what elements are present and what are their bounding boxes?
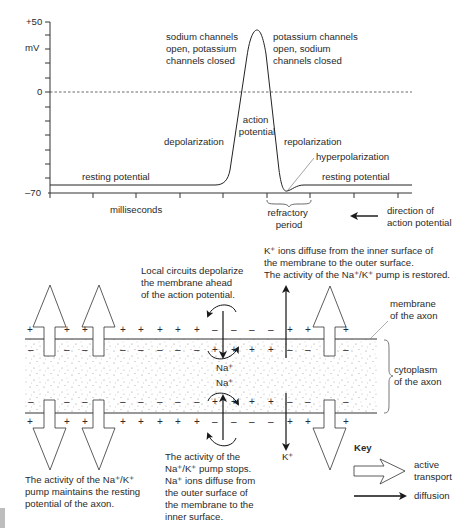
svg-text:–: – bbox=[120, 344, 126, 355]
svg-text:+: + bbox=[175, 416, 181, 427]
svg-text:–: – bbox=[138, 344, 144, 355]
svg-text:+: + bbox=[343, 416, 349, 427]
svg-text:–: – bbox=[287, 396, 293, 407]
svg-text:–: – bbox=[64, 396, 70, 407]
svg-text:–: – bbox=[212, 324, 218, 335]
resting-potential-right-label: resting potential bbox=[322, 171, 390, 182]
svg-text:–: – bbox=[157, 396, 163, 407]
svg-text:–: – bbox=[305, 396, 311, 407]
svg-text:–: – bbox=[268, 324, 274, 335]
active-transport-key-icon bbox=[354, 459, 405, 484]
local-circuit-arrow-icon bbox=[208, 434, 236, 446]
svg-text:–: – bbox=[287, 344, 293, 355]
svg-text:+: + bbox=[305, 416, 311, 427]
y-unit-label: mV bbox=[25, 42, 40, 53]
membrane-of-axon-label: membrane of the axon bbox=[390, 298, 439, 321]
charge-signs-upper-outer: +++ +++ ++ –––– +++ bbox=[27, 324, 349, 335]
cytoplasm-brace bbox=[384, 340, 393, 413]
svg-text:+: + bbox=[249, 344, 255, 355]
action-potential-diagram: +50 mV 0 –70 milliseconds sodium channel… bbox=[0, 0, 476, 531]
svg-text:–: – bbox=[175, 344, 181, 355]
svg-text:–: – bbox=[82, 344, 88, 355]
refractory-brace bbox=[267, 200, 311, 207]
svg-text:+: + bbox=[268, 344, 274, 355]
svg-text:+: + bbox=[138, 324, 144, 335]
svg-text:+: + bbox=[157, 416, 163, 427]
svg-text:+: + bbox=[305, 324, 311, 335]
k-ion-label: K⁺ bbox=[282, 451, 293, 462]
svg-text:–: – bbox=[305, 344, 311, 355]
svg-text:–: – bbox=[249, 324, 255, 335]
svg-text:+: + bbox=[287, 416, 293, 427]
repolarization-label: repolarization bbox=[284, 136, 342, 147]
k-diffuse-note: K⁺ ions diffuse from the inner surface o… bbox=[264, 245, 450, 280]
potassium-channels-label: potassium channels open, sodium channels… bbox=[273, 31, 360, 66]
svg-text:–: – bbox=[268, 416, 274, 427]
charge-signs-lower-outer: +++ +++ ++ –––– +++ bbox=[27, 416, 349, 427]
svg-text:+: + bbox=[82, 324, 88, 335]
sodium-channels-label: sodium channels open, potassium channels… bbox=[166, 31, 241, 66]
resting-potential-left-label: resting potential bbox=[82, 171, 150, 182]
svg-text:+: + bbox=[27, 416, 33, 427]
svg-text:–: – bbox=[212, 416, 218, 427]
membrane-potential-graph: +50 mV 0 –70 milliseconds sodium channel… bbox=[25, 16, 452, 230]
y-label-top: +50 bbox=[26, 16, 42, 27]
svg-text:+: + bbox=[212, 344, 218, 355]
svg-text:+: + bbox=[157, 324, 163, 335]
svg-text:–: – bbox=[28, 396, 34, 407]
svg-text:+: + bbox=[194, 416, 200, 427]
x-ticks bbox=[50, 193, 398, 198]
svg-text:+: + bbox=[194, 324, 200, 335]
svg-text:–: – bbox=[249, 416, 255, 427]
diffusion-key-label: diffusion bbox=[414, 490, 450, 501]
svg-text:–: – bbox=[64, 344, 70, 355]
local-circuits-note: Local circuits depolarize the membrane a… bbox=[141, 265, 246, 300]
svg-text:–: – bbox=[231, 416, 237, 427]
cytoplasm-label: cytoplasm of the axon bbox=[394, 364, 441, 387]
svg-text:+: + bbox=[268, 396, 274, 407]
svg-text:+: + bbox=[82, 416, 88, 427]
svg-text:+: + bbox=[138, 416, 144, 427]
membrane-pointer bbox=[370, 321, 388, 339]
depolarization-label: depolarization bbox=[164, 136, 224, 147]
pump-stops-note: The activity of the Na⁺/K⁺ pump stops. N… bbox=[165, 451, 258, 522]
svg-text:+: + bbox=[175, 324, 181, 335]
svg-text:+: + bbox=[64, 416, 70, 427]
svg-text:+: + bbox=[212, 396, 218, 407]
direction-label: direction of action potential bbox=[387, 205, 452, 228]
x-axis-label: milliseconds bbox=[110, 204, 162, 215]
svg-text:+: + bbox=[120, 416, 126, 427]
action-potential-label: action potential bbox=[239, 114, 275, 137]
na-ion-label-upper: Na⁺ bbox=[216, 362, 233, 373]
svg-text:–: – bbox=[157, 344, 163, 355]
svg-text:–: – bbox=[194, 396, 200, 407]
svg-text:–: – bbox=[82, 396, 88, 407]
y-ticks bbox=[45, 35, 50, 178]
active-transport-key-label: active transport bbox=[414, 459, 452, 482]
svg-text:–: – bbox=[28, 344, 34, 355]
svg-text:–: – bbox=[138, 396, 144, 407]
hyperpolarization-label: hyperpolarization bbox=[316, 151, 389, 162]
svg-text:+: + bbox=[120, 324, 126, 335]
key-title: Key bbox=[354, 442, 372, 453]
svg-text:–: – bbox=[343, 396, 349, 407]
y-label-zero: 0 bbox=[37, 86, 42, 97]
na-ion-label-lower: Na⁺ bbox=[216, 377, 233, 388]
svg-text:–: – bbox=[231, 324, 237, 335]
svg-text:+: + bbox=[343, 324, 349, 335]
svg-text:–: – bbox=[175, 396, 181, 407]
key-legend: Key active transport diffusion bbox=[354, 442, 452, 501]
local-circuit-arrow-icon bbox=[208, 305, 236, 316]
refractory-period-label: refractory period bbox=[267, 207, 310, 230]
svg-text:+: + bbox=[27, 324, 33, 335]
svg-text:–: – bbox=[194, 344, 200, 355]
svg-text:+: + bbox=[249, 396, 255, 407]
svg-text:+: + bbox=[287, 324, 293, 335]
svg-text:+: + bbox=[64, 324, 70, 335]
svg-text:–: – bbox=[343, 344, 349, 355]
pump-maintains-note: The activity of the Na⁺/K⁺ pump maintain… bbox=[25, 474, 143, 509]
page-edge-marker bbox=[0, 508, 5, 528]
y-label-bottom: –70 bbox=[25, 187, 41, 198]
svg-text:–: – bbox=[120, 396, 126, 407]
